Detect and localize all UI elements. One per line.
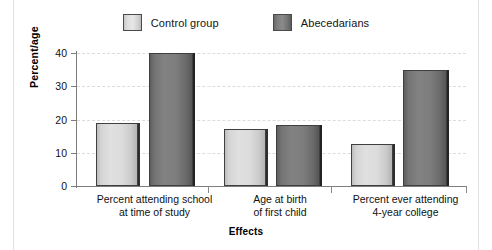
y-tick-20: 20: [71, 120, 77, 121]
category-label-line-1: Percent ever attending: [338, 193, 473, 206]
y-axis-title: Percent/age: [28, 26, 40, 88]
legend-item-abecedarians: Abecedarians: [273, 14, 369, 31]
legend-label-abecedarians: Abecedarians: [301, 17, 369, 29]
y-tick-label-10: 10: [55, 147, 67, 159]
category-label-line-1: Age at birth: [225, 193, 335, 206]
y-tick-label-30: 30: [55, 80, 67, 92]
category-label-percent-attending-school: Percent attending school at time of stud…: [82, 193, 227, 218]
y-tick-40: 40: [71, 53, 77, 54]
legend-swatch-control-group-icon: [123, 14, 142, 31]
y-tick-0: 0: [71, 186, 77, 187]
y-tick-10: 10: [71, 153, 77, 154]
category-label-age-at-birth: Age at birth of first child: [225, 193, 335, 218]
legend-label-control-group: Control group: [151, 17, 219, 29]
page-rule-right: [478, 0, 479, 250]
legend-swatch-abecedarians-icon: [273, 14, 292, 31]
bar-control-group-percent-ever-attending-college: [351, 144, 393, 186]
y-tick-label-40: 40: [55, 47, 67, 59]
legend-item-control-group: Control group: [123, 14, 219, 31]
category-separator-tick-2: [331, 186, 332, 193]
category-separator-tick-1: [208, 186, 209, 193]
y-tick-label-20: 20: [55, 114, 67, 126]
bar-control-group-percent-attending-school: [96, 123, 138, 186]
chart-legend: Control group Abecedarians: [0, 14, 492, 31]
bar-chart-screenshot: Control group Abecedarians Percent/age 4…: [0, 0, 492, 250]
bar-abecedarians-age-at-birth: [276, 125, 320, 187]
category-label-percent-ever-attending-college: Percent ever attending 4-year college: [338, 193, 473, 218]
plot-area: 40 30 20 10 0: [77, 53, 466, 186]
category-label-line-2: 4-year college: [338, 206, 473, 219]
bar-abecedarians-percent-ever-attending-college: [403, 70, 447, 186]
bar-abecedarians-percent-attending-school: [149, 53, 193, 186]
category-label-line-2: of first child: [225, 206, 335, 219]
gridline-40: [77, 53, 466, 54]
y-tick-label-0: 0: [61, 180, 67, 192]
x-axis-title: Effects: [0, 226, 492, 237]
page-rule-left: [13, 0, 14, 250]
x-axis-line: [71, 186, 467, 187]
y-tick-30: 30: [71, 86, 77, 87]
x-axis-end-tick: [466, 186, 467, 193]
category-label-line-2: at time of study: [82, 206, 227, 219]
bar-control-group-age-at-birth: [224, 129, 266, 186]
category-label-line-1: Percent attending school: [82, 193, 227, 206]
